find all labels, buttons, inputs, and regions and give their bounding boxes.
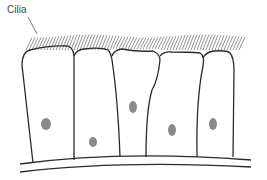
cell-5-outline [203, 51, 234, 157]
cilium [239, 37, 245, 50]
cilium [128, 37, 134, 49]
cilium [56, 36, 62, 50]
cell-4-nucleus [168, 124, 176, 136]
cilium [113, 36, 119, 49]
cilium [53, 36, 59, 50]
cilium [203, 35, 209, 50]
cilium [149, 37, 155, 49]
cilium [215, 35, 221, 50]
cilium [131, 37, 137, 49]
cilium [83, 35, 89, 50]
cilium [26, 37, 32, 50]
cell-2-outline [74, 48, 120, 157]
cilium [200, 35, 206, 50]
cilium [50, 37, 56, 50]
cilium [143, 37, 149, 49]
cilium [125, 37, 131, 49]
cilium [209, 35, 215, 50]
cilium [80, 35, 86, 50]
cell-1-outline [22, 46, 74, 163]
cilium [206, 35, 212, 50]
cilium [191, 35, 197, 50]
cell-4-outline [160, 52, 204, 157]
cilia-leader-line [28, 17, 37, 34]
cilium [170, 36, 176, 50]
cilium [44, 37, 50, 50]
cilium [185, 35, 191, 50]
cilium [74, 35, 80, 50]
cell-5-nucleus [209, 118, 217, 130]
cilium [230, 36, 236, 50]
cilium [182, 35, 188, 50]
basement-membrane-lower [20, 164, 251, 172]
cilium [218, 35, 224, 50]
cilia-hatching [26, 35, 245, 50]
cilium [62, 36, 68, 50]
cilium [152, 37, 158, 49]
cilium [233, 37, 239, 50]
cilium [167, 36, 173, 50]
cilium [197, 35, 203, 50]
cilium [158, 37, 164, 49]
cilium [107, 36, 113, 50]
cilium [161, 37, 167, 50]
cilium [119, 36, 125, 49]
cilium [122, 37, 128, 49]
cilium [224, 36, 230, 50]
cilium [110, 36, 116, 50]
basement-membrane-upper [20, 156, 251, 164]
cilium [221, 36, 227, 50]
cilium [140, 37, 146, 49]
cilium [179, 35, 185, 50]
cilium [137, 37, 143, 49]
cilium [173, 36, 179, 50]
cilium [29, 37, 35, 50]
cilium [77, 35, 83, 50]
cilium [146, 37, 152, 49]
cilium [155, 37, 161, 49]
cilium [236, 37, 242, 50]
cilium [59, 36, 65, 50]
cilium [188, 35, 194, 50]
cilium [71, 35, 77, 50]
cilium [134, 37, 140, 49]
cilium [227, 36, 233, 50]
cilium [116, 36, 122, 49]
cilium [176, 35, 182, 50]
cell-1-nucleus [41, 118, 51, 130]
cell-2-nucleus [89, 137, 97, 147]
cilium [47, 37, 53, 50]
cilium [86, 35, 92, 50]
cilium [164, 36, 170, 50]
epithelium-diagram [0, 0, 267, 180]
nuclei [41, 101, 217, 147]
cilium [101, 35, 107, 50]
cilium [212, 35, 218, 50]
cilium [104, 35, 110, 50]
cell-3-nucleus [129, 101, 137, 113]
cilium [194, 35, 200, 50]
